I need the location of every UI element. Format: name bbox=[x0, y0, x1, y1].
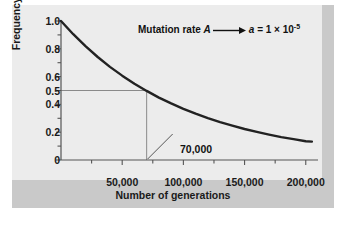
y-axis-title: Frequency of A bbox=[10, 0, 22, 57]
figure-panel: 00.20.40.50.60.81.0 50,000100,000150,000… bbox=[12, 5, 334, 208]
mutation-rate-annotation: Mutation rate A a = 1 × 10-5 bbox=[138, 23, 300, 35]
x-tick-label: 50,000 bbox=[106, 176, 138, 188]
callout-label: 70,000 bbox=[180, 143, 212, 155]
y-tick-label: 0.2 bbox=[24, 126, 60, 138]
y-axis-title-text: Frequency of A bbox=[10, 0, 22, 50]
y-tick-label: 0 bbox=[24, 154, 60, 166]
x-axis-title: Number of generations bbox=[12, 189, 334, 201]
y-tick-label: 0.8 bbox=[24, 43, 60, 55]
x-tick-label: 200,000 bbox=[287, 176, 325, 188]
x-tick-label: 150,000 bbox=[226, 176, 264, 188]
y-tick-label: 1.0 bbox=[24, 15, 60, 27]
y-tick-label: 0.5 bbox=[24, 85, 60, 97]
annotation-base: 10 bbox=[280, 24, 294, 35]
y-tick-label: 0.6 bbox=[24, 71, 60, 83]
x-tick-label: 100,000 bbox=[164, 176, 202, 188]
annotation-prefix: Mutation rate bbox=[138, 24, 204, 35]
annotation-allele-from: A bbox=[204, 24, 211, 35]
annotation-equals: = 1 bbox=[254, 24, 274, 35]
y-tick-label: 0.4 bbox=[24, 98, 60, 110]
arrow-right-icon bbox=[213, 26, 247, 35]
annotation-exponent: -5 bbox=[294, 23, 300, 30]
